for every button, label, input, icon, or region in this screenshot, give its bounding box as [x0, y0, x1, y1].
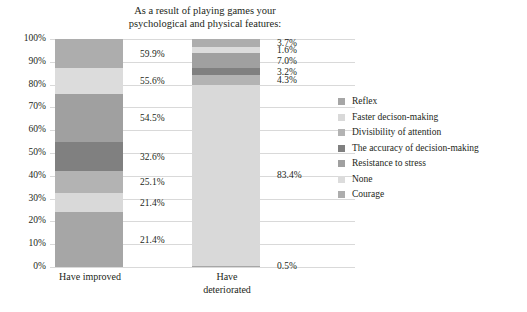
category-label-line: deteriorated	[177, 284, 277, 297]
bar-segment[interactable]	[192, 75, 260, 84]
y-axis: 0%10%20%30%40%50%60%70%80%90%100%	[4, 39, 46, 267]
data-label: 3.2%	[277, 67, 297, 77]
bar-segment[interactable]	[55, 193, 123, 212]
legend-swatch-icon	[338, 160, 345, 167]
legend-label: The accuracy of decision-making	[352, 143, 479, 154]
legend-item-the-accuracy-of-decision-making[interactable]: The accuracy of decision-making	[338, 141, 526, 157]
y-axis-tick-40%: 40%	[6, 171, 46, 181]
page-title: As a result of playing games your psycho…	[70, 4, 340, 30]
legend-swatch-icon	[338, 145, 345, 152]
y-axis-tick-100%: 100%	[6, 34, 46, 44]
bar-segment[interactable]	[192, 68, 260, 75]
bar-segment[interactable]	[55, 94, 123, 142]
legend-label: Courage	[352, 189, 384, 200]
category-label-line: Have	[177, 271, 277, 284]
plot-area: 21.4%21.4%25.1%32.6%54.5%55.6%59.9%0.5%8…	[50, 39, 355, 267]
data-label: 54.5%	[140, 113, 165, 123]
data-label: 59.9%	[140, 49, 165, 59]
legend-item-faster-decison-making[interactable]: Faster decison-making	[338, 110, 526, 126]
legend-label: Resistance to stress	[352, 158, 426, 169]
legend-item-none[interactable]: None	[338, 172, 526, 188]
legend-label: Reflex	[352, 96, 377, 107]
bar-segment[interactable]	[55, 142, 123, 171]
y-axis-tick-10%: 10%	[6, 239, 46, 249]
data-label: 21.4%	[140, 235, 165, 245]
legend-swatch-icon	[338, 191, 345, 198]
legend: ReflexFaster decison-makingDivisibility …	[338, 94, 526, 203]
legend-swatch-icon	[338, 114, 345, 121]
bar-segment[interactable]	[192, 85, 260, 266]
gridline-0%	[50, 267, 355, 268]
y-axis-tick-70%: 70%	[6, 102, 46, 112]
data-label: 7.0%	[277, 56, 297, 66]
bar-segment[interactable]	[192, 47, 260, 53]
legend-item-courage[interactable]: Courage	[338, 187, 526, 203]
chart-title-line-2: psychological and physical features:	[70, 17, 340, 30]
y-axis-tick-50%: 50%	[6, 148, 46, 158]
legend-item-reflex[interactable]: Reflex	[338, 94, 526, 110]
legend-swatch-icon	[338, 129, 345, 136]
data-label: 83.4%	[277, 170, 302, 180]
bar-segment[interactable]	[55, 212, 123, 267]
bar-stack-have-deteriorated[interactable]	[192, 39, 260, 267]
category-label-have-improved: Have improved	[40, 271, 140, 284]
legend-label: None	[352, 174, 373, 185]
y-axis-tick-90%: 90%	[6, 57, 46, 67]
data-label: 32.6%	[140, 152, 165, 162]
bar-segment[interactable]	[192, 39, 260, 47]
y-axis-tick-20%: 20%	[6, 216, 46, 226]
bar-segment[interactable]	[55, 39, 123, 68]
bar-stack-have-improved[interactable]	[55, 39, 123, 267]
y-axis-tick-30%: 30%	[6, 194, 46, 204]
y-axis-tick-80%: 80%	[6, 80, 46, 90]
bar-segment[interactable]	[192, 266, 260, 267]
legend-label: Faster decison-making	[352, 112, 438, 123]
y-axis-tick-60%: 60%	[6, 125, 46, 135]
legend-item-resistance-to-stress[interactable]: Resistance to stress	[338, 156, 526, 172]
legend-swatch-icon	[338, 176, 345, 183]
data-label: 0.5%	[277, 261, 297, 271]
bar-segment[interactable]	[55, 68, 123, 94]
data-label: 3.7%	[277, 38, 297, 48]
legend-swatch-icon	[338, 98, 345, 105]
data-label: 25.1%	[140, 177, 165, 187]
data-label: 55.6%	[140, 76, 165, 86]
legend-item-divisibility-of-attention[interactable]: Divisibility of attention	[338, 125, 526, 141]
bar-segment[interactable]	[55, 171, 123, 193]
legend-label: Divisibility of attention	[352, 127, 441, 138]
data-label: 21.4%	[140, 198, 165, 208]
chart-title-line-1: As a result of playing games your	[70, 4, 340, 17]
category-label-have-deteriorated: Havedeteriorated	[177, 271, 277, 296]
bar-segment[interactable]	[192, 53, 260, 68]
category-label-line: Have improved	[40, 271, 140, 284]
